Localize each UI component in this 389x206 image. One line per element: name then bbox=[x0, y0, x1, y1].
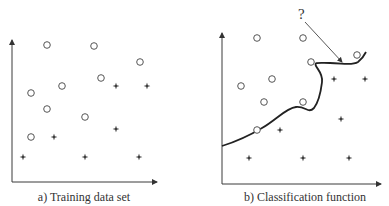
star-point-icon bbox=[82, 154, 89, 161]
star-point-icon bbox=[300, 155, 307, 162]
circle-point-icon bbox=[28, 134, 35, 141]
circle-point-icon bbox=[238, 83, 245, 90]
circle-point-icon bbox=[254, 127, 261, 134]
star-point-icon bbox=[113, 83, 120, 90]
circle-point-icon bbox=[82, 114, 89, 121]
star-point-icon bbox=[346, 155, 353, 162]
star-point-icon bbox=[246, 155, 253, 162]
circle-point-icon bbox=[44, 42, 51, 49]
circle-point-icon bbox=[44, 106, 51, 113]
star-point-icon bbox=[136, 154, 143, 161]
panel-classification-function: ? b) Classification function bbox=[222, 6, 381, 204]
star-point-icon bbox=[331, 76, 338, 83]
circle-point-icon bbox=[261, 99, 268, 106]
star-point-icon bbox=[20, 154, 27, 161]
classification-diagram: a) Training data set ? b) Classification… bbox=[0, 0, 389, 206]
star-class-points bbox=[246, 76, 369, 162]
circle-point-icon bbox=[98, 75, 105, 82]
star-point-icon bbox=[362, 76, 369, 83]
caption-classification-function: b) Classification function bbox=[244, 190, 366, 204]
decision-boundary-curve bbox=[222, 52, 366, 146]
circle-point-icon bbox=[269, 76, 276, 83]
question-arrow bbox=[305, 22, 342, 62]
panel-training-data: a) Training data set bbox=[12, 40, 157, 204]
circle-point-icon bbox=[91, 43, 98, 50]
circle-point-icon bbox=[59, 83, 66, 90]
star-point-icon bbox=[277, 127, 284, 134]
axes bbox=[12, 40, 157, 182]
question-mark-label: ? bbox=[298, 6, 305, 22]
caption-training-data: a) Training data set bbox=[38, 190, 131, 204]
circle-point-icon bbox=[254, 35, 261, 42]
star-point-icon bbox=[144, 83, 151, 90]
circle-point-icon bbox=[28, 90, 35, 97]
circle-point-icon bbox=[354, 52, 361, 59]
circle-point-icon bbox=[137, 59, 144, 66]
star-point-icon bbox=[51, 134, 58, 141]
circle-point-icon bbox=[300, 99, 307, 106]
circle-class-points bbox=[28, 42, 144, 141]
star-point-icon bbox=[338, 116, 345, 123]
circle-point-icon bbox=[300, 35, 307, 42]
star-point-icon bbox=[113, 126, 120, 133]
star-class-points bbox=[20, 83, 151, 161]
circle-point-icon bbox=[308, 59, 315, 66]
